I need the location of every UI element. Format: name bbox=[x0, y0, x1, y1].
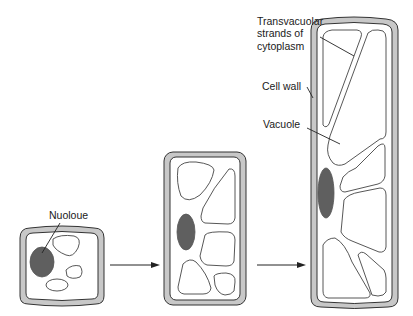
cell-growth-diagram: Nuoloue Transvacuolar strands of bbox=[0, 0, 413, 316]
small-vacuole bbox=[46, 279, 68, 291]
large-cell bbox=[311, 17, 398, 309]
growth-arrow-1 bbox=[110, 262, 160, 268]
medium-cell bbox=[164, 152, 246, 305]
nucleus bbox=[318, 168, 334, 218]
nucleus-label: Nuoloue bbox=[49, 209, 88, 221]
medium-vacuole bbox=[200, 232, 235, 266]
cell-wall-label: Cell wall bbox=[262, 80, 301, 92]
nucleus bbox=[177, 214, 195, 250]
growth-arrow-2 bbox=[257, 262, 306, 268]
small-cell bbox=[20, 226, 104, 306]
svg-text:Transvacuolar: Transvacuolar bbox=[257, 15, 324, 27]
svg-text:cytoplasm: cytoplasm bbox=[257, 40, 305, 52]
svg-text:strands of: strands of bbox=[257, 27, 303, 39]
nucleus bbox=[30, 247, 54, 277]
vacuole-label: Vacuole bbox=[263, 118, 300, 130]
